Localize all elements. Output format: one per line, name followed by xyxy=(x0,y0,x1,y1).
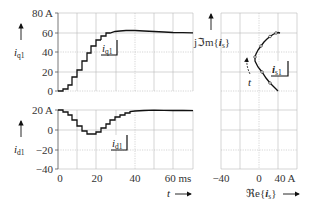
t-tick-20: 20 xyxy=(92,172,104,184)
iq-y-ticks xyxy=(55,13,58,91)
id-tick-20: 20 A xyxy=(32,104,53,116)
iq-tick-20: 20 xyxy=(42,66,54,78)
iq-plot: 80 A 60 40 20 0 iq1 iq1 xyxy=(14,7,193,97)
iq-curve-label: iq1 xyxy=(101,40,117,56)
is-curve-label: is1 xyxy=(271,61,288,77)
id-tick-m20: −20 xyxy=(36,144,54,156)
iq-grid xyxy=(58,13,193,91)
iq-axis-label: iq1 xyxy=(14,46,25,60)
phasor-grid xyxy=(221,13,297,169)
re-tick-m40: −40 xyxy=(212,172,230,184)
figure: 80 A 60 40 20 0 iq1 iq1 xyxy=(0,0,312,207)
re-axis-label: ℜe{is} xyxy=(246,187,276,201)
t-tick-0: 0 xyxy=(57,172,63,184)
iq-tick-40: 40 xyxy=(42,46,54,58)
im-axis-label: jℑm{is} xyxy=(193,36,230,50)
id-tick-m40: −40 xyxy=(36,163,54,175)
t-tick-60: 60 ms xyxy=(165,172,192,184)
id-y-ticks xyxy=(55,110,58,169)
id-plot: 20 A 0 −20 −40 id1 id1 0 20 40 60 ms t xyxy=(14,104,193,199)
id-tick-0: 0 xyxy=(48,124,54,136)
direction-label: t xyxy=(248,76,252,88)
phasor-plot: t is1 jℑm{is} −40 0 40 A ℜe{is} xyxy=(193,13,299,201)
iq-tick-80: 80 A xyxy=(32,7,53,19)
re-tick-40: 40 A xyxy=(274,172,295,184)
re-tick-0: 0 xyxy=(256,172,262,184)
id-axis-label: id1 xyxy=(14,143,25,157)
direction-arrow-icon xyxy=(247,58,250,74)
t-tick-40: 40 xyxy=(130,172,142,184)
iq-tick-0: 0 xyxy=(48,85,54,97)
id-curve-label: id1 xyxy=(111,135,127,151)
iq-tick-60: 60 xyxy=(42,27,54,39)
t-axis-label: t xyxy=(167,187,171,199)
